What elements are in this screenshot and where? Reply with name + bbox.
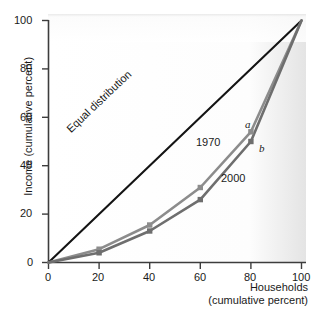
x-axis-title-line2: (cumulative percent): [208, 294, 308, 307]
x-tick-label-20: 20: [92, 271, 104, 283]
x-tick-label-40: 40: [143, 271, 155, 283]
x-tick-label-0: 0: [45, 271, 51, 283]
x-axis-title-line1: Households: [208, 281, 308, 294]
y-axis-title: Income (cumulative percent): [22, 36, 35, 216]
y-axis-ticks: [42, 21, 49, 263]
y-tick-label-100: 100: [14, 14, 32, 26]
point-label-b: b: [259, 142, 265, 154]
lorenz-curve-figure: 0 20 40 60 80 100 0 20 40 60 80 100 Inco…: [0, 0, 314, 315]
series-label-1970: 1970: [196, 136, 220, 148]
x-tick-label-60: 60: [194, 271, 206, 283]
chart-canvas: [0, 0, 314, 315]
series-label-2000: 2000: [221, 172, 245, 184]
plot-background-top-shade: [48, 14, 306, 42]
x-axis-ticks: [49, 263, 302, 270]
x-axis-title: Households (cumulative percent): [208, 281, 308, 306]
y-tick-label-0: 0: [27, 256, 33, 268]
point-label-a: a: [245, 118, 251, 130]
